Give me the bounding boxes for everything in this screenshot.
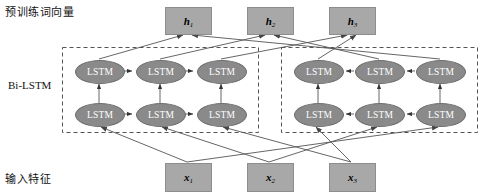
row-label-input-features: 输入特征 bbox=[5, 170, 51, 186]
output-vector-label-h2: h2 bbox=[266, 16, 276, 27]
lstm-cell-bwd-top-2: LSTM bbox=[355, 60, 405, 84]
edge-x1-bwd bbox=[187, 127, 438, 162]
row-label-pretrained-embeddings: 预训练词向量 bbox=[5, 3, 74, 19]
output-vector-label-h1: h1 bbox=[184, 16, 194, 27]
lstm-cell-fwd-top-2: LSTM bbox=[136, 60, 186, 84]
output-vector-h2: h2 bbox=[247, 7, 294, 35]
lstm-cell-bwd-top-1: LSTM bbox=[294, 60, 344, 84]
lstm-cell-fwd-top-3: LSTM bbox=[197, 60, 247, 84]
lstm-cell-bwd-bot-1: LSTM bbox=[294, 103, 344, 127]
input-feature-label-x1: x1 bbox=[184, 172, 193, 183]
input-feature-label-x3: x3 bbox=[348, 172, 357, 183]
input-feature-x1: x1 bbox=[165, 163, 212, 192]
output-vector-h3: h3 bbox=[329, 7, 376, 35]
input-feature-x2: x2 bbox=[247, 163, 294, 192]
input-feature-x3: x3 bbox=[329, 163, 376, 192]
diagram-canvas: 预训练词向量 Bi-LSTM 输入特征 h1h2h3 x1x2x3 LSTMLS… bbox=[0, 0, 484, 196]
row-label-bilstm: Bi-LSTM bbox=[8, 79, 51, 91]
lstm-cell-bwd-top-3: LSTM bbox=[416, 60, 466, 84]
lstm-cell-bwd-bot-3: LSTM bbox=[416, 103, 466, 127]
connection-layer bbox=[0, 0, 484, 196]
lstm-cell-fwd-bot-3: LSTM bbox=[197, 103, 247, 127]
lstm-cell-fwd-bot-2: LSTM bbox=[136, 103, 186, 127]
input-feature-label-x2: x2 bbox=[266, 172, 275, 183]
lstm-cell-fwd-bot-1: LSTM bbox=[75, 103, 125, 127]
lstm-cell-fwd-top-1: LSTM bbox=[75, 60, 125, 84]
output-vector-h1: h1 bbox=[165, 7, 212, 35]
output-vector-label-h3: h3 bbox=[348, 16, 358, 27]
lstm-cell-bwd-bot-2: LSTM bbox=[355, 103, 405, 127]
